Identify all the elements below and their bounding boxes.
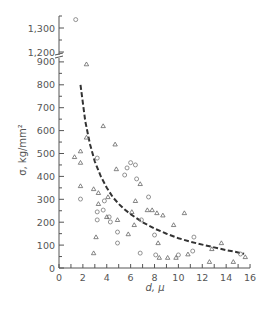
triangle-marker	[182, 211, 186, 215]
y-tick-label: 900	[37, 56, 55, 67]
circle-marker	[123, 173, 127, 177]
triangle-marker	[145, 208, 149, 212]
triangle-marker	[78, 184, 82, 188]
triangle-marker	[72, 155, 76, 159]
circle-marker	[102, 199, 106, 203]
triangle-marker	[171, 223, 175, 227]
y-tick-label: 500	[37, 148, 55, 159]
circle-marker	[95, 218, 99, 222]
triangle-marker	[96, 191, 100, 195]
triangle-marker	[106, 195, 110, 199]
x-tick-label: 14	[220, 272, 232, 283]
triangle-marker	[138, 182, 142, 186]
scatter-chart: 0246810121416 01002003004005006007008009…	[0, 0, 269, 312]
triangle-marker	[84, 62, 88, 66]
triangle-marker	[126, 232, 130, 236]
circle-marker	[238, 252, 242, 256]
y-tick-label: 200	[37, 217, 55, 228]
x-axis-label: d, μ	[145, 282, 164, 293]
circle-marker	[116, 241, 120, 245]
circle-marker	[78, 197, 82, 201]
triangle-marker	[231, 260, 235, 264]
y-tick-label: 1,300	[28, 23, 55, 34]
y-tick-label: 700	[37, 102, 55, 113]
triangle-marker	[130, 210, 134, 214]
circle-marker	[176, 253, 180, 257]
circle-marker	[125, 166, 129, 170]
triangle-marker	[174, 255, 178, 259]
triangle-marker	[84, 135, 88, 139]
fit-curve	[81, 85, 245, 254]
triangle-marker	[91, 187, 95, 191]
y-tick-label: 600	[37, 125, 55, 136]
circle-marker	[147, 195, 151, 199]
x-tick-label: 12	[196, 272, 208, 283]
x-tick-label: 10	[172, 272, 184, 283]
triangle-marker	[165, 255, 169, 259]
y-tick-label: 100	[37, 240, 55, 251]
x-tick-label: 6	[128, 272, 134, 283]
axes	[55, 16, 250, 268]
axis-break-mark	[55, 53, 63, 58]
y-tick-label: 800	[37, 79, 55, 90]
data-points	[72, 18, 247, 264]
y-axis-label: σ, kg/mm²	[17, 124, 28, 176]
y-tick-label: 400	[37, 171, 55, 182]
triangle-marker	[219, 241, 223, 245]
triangle-marker	[207, 260, 211, 264]
triangle-marker	[91, 251, 95, 255]
circle-marker	[191, 249, 195, 253]
x-tick-label: 4	[104, 272, 110, 283]
triangle-marker	[156, 241, 160, 245]
circle-marker	[154, 253, 158, 257]
y-tick-label: 300	[37, 194, 55, 205]
circle-marker	[153, 233, 157, 237]
y-tick-label: 1,200	[28, 47, 55, 58]
triangle-marker	[113, 142, 117, 146]
circle-marker	[108, 220, 112, 224]
circle-marker	[129, 161, 133, 165]
triangle-marker	[115, 218, 119, 222]
x-tick-label: 16	[244, 272, 256, 283]
y-tick-label: 0	[49, 263, 55, 274]
triangle-marker	[101, 124, 105, 128]
triangle-marker	[94, 235, 98, 239]
triangle-marker	[150, 208, 154, 212]
triangle-marker	[243, 255, 247, 259]
triangle-marker	[78, 149, 82, 153]
triangle-marker	[133, 199, 137, 203]
triangle-marker	[114, 167, 118, 171]
x-tick-label: 0	[56, 272, 62, 283]
x-tick-label: 2	[80, 272, 86, 283]
triangle-marker	[132, 223, 136, 227]
triangle-marker	[161, 213, 165, 217]
circle-marker	[101, 208, 105, 212]
triangle-marker	[96, 202, 100, 206]
circle-marker	[95, 156, 99, 160]
x-axis-ticks: 0246810121416	[56, 264, 256, 283]
triangle-marker	[78, 160, 82, 164]
triangle-marker	[155, 211, 159, 215]
circle-marker	[95, 210, 99, 214]
circle-marker	[74, 18, 78, 22]
circle-marker	[135, 177, 139, 181]
circle-marker	[192, 235, 196, 239]
circle-marker	[116, 230, 120, 234]
triangle-marker	[186, 252, 190, 256]
circle-marker	[133, 163, 137, 167]
circle-marker	[138, 251, 142, 255]
